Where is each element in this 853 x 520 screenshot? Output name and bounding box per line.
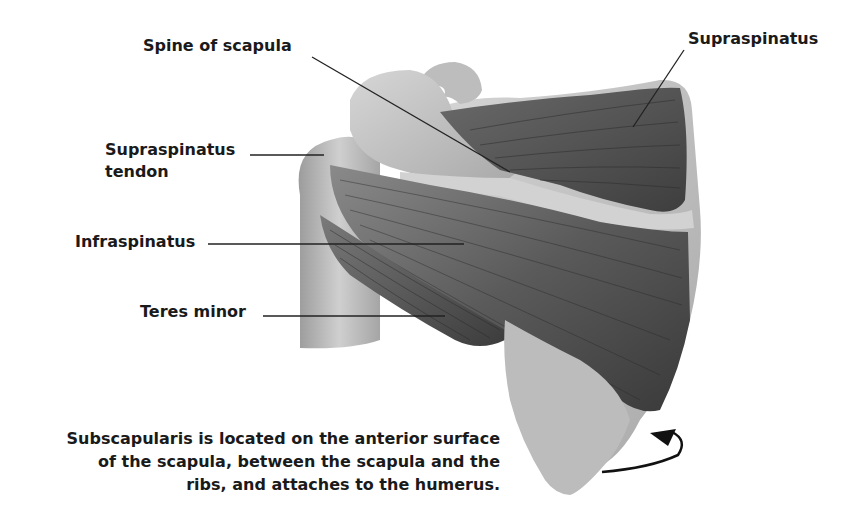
label-supraspinatus: Supraspinatus <box>688 29 818 49</box>
caption-line-3: ribs, and attaches to the humerus. <box>30 473 500 496</box>
label-teres-minor: Teres minor <box>140 302 246 322</box>
label-supraspinatus-tendon-line2: tendon <box>105 162 169 182</box>
label-supraspinatus-tendon-line1: Supraspinatus <box>105 140 235 160</box>
label-spine-of-scapula: Spine of scapula <box>143 36 292 56</box>
subscapularis-caption: Subscapularis is located on the anterior… <box>30 427 500 496</box>
anatomy-diagram: Spine of scapula Supraspinatus Supraspin… <box>0 0 853 520</box>
caption-line-1: Subscapularis is located on the anterior… <box>30 427 500 450</box>
label-infraspinatus: Infraspinatus <box>75 232 195 252</box>
caption-line-2: of the scapula, between the scapula and … <box>30 450 500 473</box>
